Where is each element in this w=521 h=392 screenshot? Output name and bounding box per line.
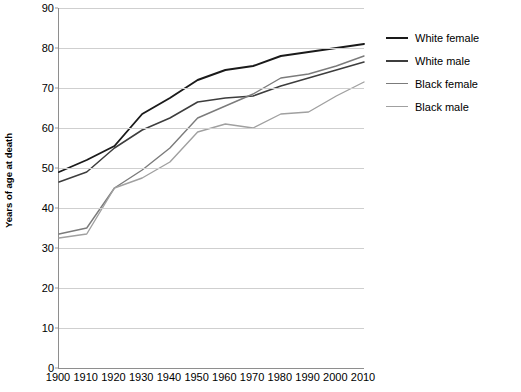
series-layer (59, 8, 364, 368)
legend-label: Black female (415, 78, 478, 90)
plot-wrapper: 0102030405060708090 19001910192019301940… (18, 8, 366, 383)
x-tick-label: 2000 (323, 371, 347, 383)
gridline (59, 88, 364, 89)
y-tick-label: 30 (42, 242, 54, 254)
gridline (59, 328, 364, 329)
y-tick-label: 10 (42, 322, 54, 334)
y-tick-label: 60 (42, 122, 54, 134)
x-tick-label: 1930 (129, 371, 153, 383)
legend-swatch-line-icon (386, 83, 408, 84)
legend-item[interactable]: Black male (386, 95, 516, 118)
y-tick-label: 90 (42, 2, 54, 14)
gridline (59, 168, 364, 169)
legend-swatch-line-icon (386, 106, 408, 107)
x-tick-label: 1980 (268, 371, 292, 383)
legend-label: Black male (415, 101, 469, 113)
series-line (59, 62, 364, 182)
gridline (59, 48, 364, 49)
legend-label: White male (415, 55, 470, 67)
y-tick-label: 70 (42, 82, 54, 94)
line-chart: Years of age at death 010203040506070809… (0, 0, 521, 392)
x-tick-label: 1960 (212, 371, 236, 383)
x-tick-label: 1920 (101, 371, 125, 383)
x-axis-ticks: 1900191019201930194019501960197019801990… (58, 371, 363, 389)
gridline (59, 208, 364, 209)
gridline (59, 8, 364, 9)
series-line (59, 44, 364, 172)
y-tick-label: 80 (42, 42, 54, 54)
y-tick-label: 20 (42, 282, 54, 294)
x-tick-label: 1970 (240, 371, 264, 383)
x-tick-label: 2010 (351, 371, 375, 383)
gridline (59, 248, 364, 249)
gridline (59, 288, 364, 289)
gridline (59, 128, 364, 129)
x-tick-label: 1940 (157, 371, 181, 383)
legend-swatch-line-icon (386, 60, 408, 62)
series-line (59, 82, 364, 238)
y-axis-ticks: 0102030405060708090 (18, 8, 58, 370)
chart-legend: White femaleWhite maleBlack femaleBlack … (386, 26, 516, 118)
x-tick-label: 1990 (295, 371, 319, 383)
plot-area (58, 8, 364, 369)
legend-label: White female (415, 32, 479, 44)
y-axis-title-text: Years of age at death (4, 132, 15, 227)
x-tick-label: 1910 (73, 371, 97, 383)
y-axis-title: Years of age at death (0, 0, 18, 360)
y-tick-label: 50 (42, 162, 54, 174)
legend-swatch-line-icon (386, 37, 408, 39)
x-tick-label: 1900 (46, 371, 70, 383)
legend-item[interactable]: White male (386, 49, 516, 72)
y-tick-label: 40 (42, 202, 54, 214)
legend-item[interactable]: Black female (386, 72, 516, 95)
x-tick-label: 1950 (184, 371, 208, 383)
legend-item[interactable]: White female (386, 26, 516, 49)
